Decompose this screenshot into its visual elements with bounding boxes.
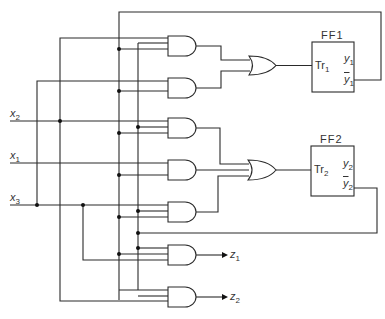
input-label-x1: x1 bbox=[10, 150, 20, 161]
logic-circuit-diagram: x2 x1 x3 FF1 Tr1 y1 y1 FF2 Tr2 y2 y2 z1 … bbox=[0, 0, 385, 319]
and-gate-6 bbox=[168, 245, 196, 265]
or-gate-1 bbox=[249, 56, 276, 75]
ff1-title: FF1 bbox=[321, 30, 344, 41]
ff1-q-label: y1 bbox=[344, 53, 354, 64]
and-gate-7 bbox=[168, 287, 196, 307]
and-gate-2 bbox=[168, 78, 196, 98]
output-label-z1: z1 bbox=[230, 249, 240, 260]
and-gate-1 bbox=[168, 36, 196, 56]
or1-input-wires bbox=[196, 46, 250, 88]
input-label-x2: x2 bbox=[10, 108, 20, 119]
output-label-z2: z2 bbox=[230, 291, 240, 302]
or-gate-2 bbox=[248, 160, 276, 180]
circuit-drawing bbox=[0, 0, 385, 319]
ff2-q-label: y2 bbox=[343, 158, 353, 169]
junction-dots bbox=[35, 47, 140, 256]
and-gate-5 bbox=[168, 202, 196, 222]
ff2-trigger-label: Tr2 bbox=[314, 164, 328, 175]
input-label-x3: x3 bbox=[10, 192, 20, 203]
output-z1-wire bbox=[196, 252, 228, 258]
ff1-qbar-label: y1 bbox=[344, 74, 354, 85]
and-gate-3 bbox=[168, 118, 196, 138]
ff2-title: FF2 bbox=[320, 134, 343, 145]
and-gate-4 bbox=[168, 160, 196, 180]
x2-branch-wire bbox=[60, 38, 168, 301]
x3-branch-up-wire bbox=[37, 81, 168, 205]
output-z2-wire bbox=[196, 294, 228, 300]
ff1-trigger-label: Tr1 bbox=[315, 60, 329, 71]
or2-input-wires bbox=[196, 128, 249, 212]
ff2-qbar-label: y2 bbox=[343, 178, 353, 189]
